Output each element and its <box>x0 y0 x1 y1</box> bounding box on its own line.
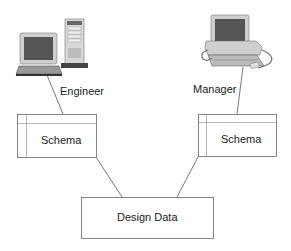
edge-schema-right-design <box>177 157 198 197</box>
desktop-tower-computer-icon <box>16 19 88 76</box>
design-data-label: Design Data <box>117 211 178 223</box>
schema-right-label: Schema <box>221 133 261 145</box>
desktop-workstation-computer-icon <box>202 15 272 69</box>
engineer-label: Engineer <box>60 85 104 97</box>
schema-left-label: Schema <box>41 134 81 146</box>
manager-label: Manager <box>193 83 236 95</box>
edge-manager-schema <box>237 67 243 114</box>
edge-schema-left-design <box>96 157 122 197</box>
